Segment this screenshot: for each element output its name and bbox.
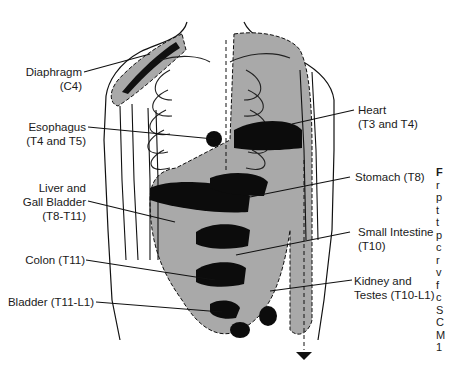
label-name: Heart	[358, 103, 418, 117]
label-level: (T4 and T5)	[10, 134, 86, 148]
label-name: Liver and	[10, 181, 86, 195]
label-liver-gall-bladder: Liver and Gall Bladder (T8-T11)	[10, 181, 86, 223]
label-level: (T3 and T4)	[358, 117, 418, 131]
label-heart: Heart (T3 and T4)	[358, 103, 418, 131]
kidney-area-1	[230, 322, 250, 338]
arrow-down-icon	[296, 352, 312, 360]
caption-line: C	[436, 316, 452, 329]
small-intestine-area	[196, 224, 250, 249]
caption-line: S	[436, 304, 452, 317]
caption-line: r	[436, 179, 452, 192]
label-name: Esophagus	[10, 120, 86, 134]
kidney-area-2	[259, 306, 277, 326]
label-name: Kidney and	[354, 274, 435, 288]
caption-line: p	[436, 191, 452, 204]
caption-line: M	[436, 329, 452, 342]
caption-line: f	[436, 279, 452, 292]
label-bladder: Bladder (T11-L1)	[0, 295, 94, 309]
label-stomach: Stomach (T8)	[355, 170, 425, 184]
caption-line: v	[436, 266, 452, 279]
caption-line: t	[436, 204, 452, 217]
caption-line: r	[436, 254, 452, 267]
label-level: Testes (T10-L1)	[354, 288, 435, 302]
caption-line: c	[436, 241, 452, 254]
label-name: Diaphragm	[20, 65, 82, 79]
label-name: Colon (T11)	[10, 253, 85, 267]
label-name: Stomach (T8)	[355, 170, 425, 184]
caption-line: 1	[436, 341, 452, 354]
referred-pain-diagram: Diaphragm (C4) Esophagus (T4 and T5) Liv…	[0, 0, 452, 379]
caption-line: p	[436, 229, 452, 242]
label-esophagus: Esophagus (T4 and T5)	[10, 120, 86, 148]
label-level: (T10)	[358, 239, 433, 253]
label-name: Small Intestine	[358, 225, 433, 239]
label-name2: Gall Bladder	[10, 195, 86, 209]
caption-line: F	[436, 166, 452, 179]
label-small-intestine: Small Intestine (T10)	[358, 225, 433, 253]
label-name: Bladder (T11-L1)	[0, 295, 94, 309]
label-colon: Colon (T11)	[10, 253, 85, 267]
caption-line: c	[436, 291, 452, 304]
figure-caption-cropped: F r p t t p c r v f c S C M 1	[436, 166, 452, 354]
label-level: (C4)	[20, 79, 82, 93]
label-diaphragm: Diaphragm (C4)	[20, 65, 82, 93]
label-kidney-testes: Kidney and Testes (T10-L1)	[354, 274, 435, 302]
label-level: (T8-T11)	[10, 209, 86, 223]
caption-line: t	[436, 216, 452, 229]
